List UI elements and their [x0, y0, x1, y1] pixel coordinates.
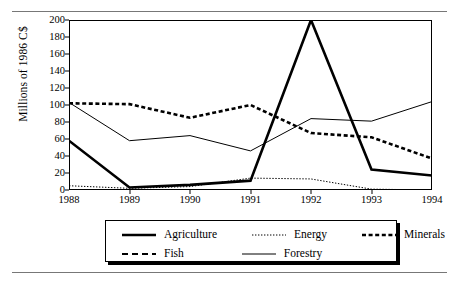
series-lines: [69, 20, 432, 190]
series-line-forestry: [69, 102, 432, 151]
top-divider-rule: [12, 11, 447, 12]
y-tick-label: 20: [55, 168, 66, 179]
legend-item-agriculture[interactable]: Agriculture: [121, 229, 217, 241]
x-tick-mark: [250, 190, 251, 194]
x-tick-mark: [371, 190, 372, 194]
y-tick-mark: [65, 105, 69, 106]
y-tick-mark: [65, 190, 69, 191]
legend-label-fish: Fish: [164, 248, 184, 260]
x-tick-label: 1989: [119, 195, 140, 206]
x-tick-label: 1988: [59, 195, 80, 206]
x-tick-mark: [190, 190, 191, 194]
x-tick-label: 1993: [361, 195, 382, 206]
bottom-divider-rule: [12, 272, 447, 273]
legend-swatch-agriculture-icon: [121, 229, 157, 241]
y-axis-title: Millions of 1986 C$: [17, 4, 29, 144]
legend-label-energy: Energy: [294, 229, 327, 241]
legend-swatch-forestry-icon: [241, 248, 277, 260]
legend-swatch-energy-icon: [251, 229, 287, 241]
y-tick-mark: [65, 71, 69, 72]
y-tick-label: 120: [49, 83, 65, 94]
plot-area: 0204060801001201401601802001988198919901…: [69, 20, 432, 190]
legend-swatch-fish-icon: [121, 248, 157, 260]
legend-item-minerals[interactable]: Minerals: [361, 229, 445, 241]
legend-item-energy[interactable]: Energy: [251, 229, 327, 241]
legend-row-2: Fish Forestry: [106, 244, 396, 263]
legend-label-forestry: Forestry: [284, 248, 322, 260]
series-line-minerals: [69, 103, 432, 158]
legend-box: Agriculture Energy Minerals Fish Forestr…: [105, 220, 397, 262]
y-tick-mark: [65, 88, 69, 89]
y-tick-mark: [65, 37, 69, 38]
x-tick-label: 1991: [240, 195, 261, 206]
y-tick-mark: [65, 173, 69, 174]
chart-page: Millions of 1986 C$ 02040608010012014016…: [0, 0, 459, 283]
y-tick-mark: [65, 54, 69, 55]
x-tick-label: 1990: [180, 195, 201, 206]
y-tick-label: 200: [49, 15, 65, 26]
y-tick-label: 100: [49, 100, 65, 111]
y-tick-label: 160: [49, 49, 65, 60]
x-tick-label: 1992: [301, 195, 322, 206]
y-tick-mark: [65, 156, 69, 157]
y-tick-label: 140: [49, 66, 65, 77]
legend-item-fish[interactable]: Fish: [121, 248, 184, 260]
x-tick-label: 1994: [422, 195, 443, 206]
legend-label-agriculture: Agriculture: [164, 229, 217, 241]
y-tick-mark: [65, 122, 69, 123]
x-tick-mark: [129, 190, 130, 194]
y-tick-label: 180: [49, 32, 65, 43]
y-tick-mark: [65, 139, 69, 140]
y-tick-label: 40: [55, 151, 66, 162]
legend-item-forestry[interactable]: Forestry: [241, 248, 322, 260]
x-tick-mark: [311, 190, 312, 194]
legend-label-minerals: Minerals: [404, 229, 445, 241]
y-tick-label: 60: [55, 134, 66, 145]
legend-swatch-minerals-icon: [361, 229, 397, 241]
y-tick-label: 80: [55, 117, 66, 128]
legend-row-1: Agriculture Energy Minerals: [106, 225, 396, 244]
y-tick-mark: [65, 20, 69, 21]
